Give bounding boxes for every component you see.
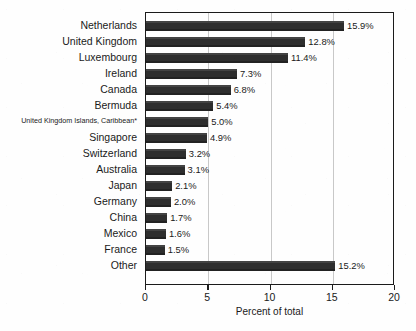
bar-row: 7.3%: [146, 66, 395, 82]
x-tick-label: 0: [130, 291, 160, 303]
bar-row: 2.0%: [146, 194, 395, 210]
bar: [146, 37, 305, 47]
bar-value-label: 15.2%: [335, 259, 365, 273]
category-label: Mexico: [104, 225, 137, 241]
x-tick-mark: [332, 285, 333, 290]
category-label: Netherlands: [80, 17, 137, 33]
bar: [146, 181, 172, 191]
bar-value-label: 6.8%: [231, 83, 255, 97]
bar-value-label: 7.3%: [237, 67, 261, 81]
bar-chart: NetherlandsUnited KingdomLuxembourgIrela…: [0, 0, 416, 331]
category-label: Other: [111, 257, 137, 273]
plot-area: 15.9%12.8%11.4%7.3%6.8%5.4%5.0%4.9%3.2%3…: [145, 12, 394, 285]
x-tick-label: 5: [192, 291, 222, 303]
bar-value-label: 2.0%: [171, 195, 195, 209]
bar-value-label: 5.0%: [208, 115, 232, 129]
category-label: United Kingdom Islands, Caribbean*: [21, 113, 137, 129]
category-label: Switzerland: [83, 145, 137, 161]
bar: [146, 117, 208, 127]
bar-row: 3.2%: [146, 146, 395, 162]
bar: [146, 165, 185, 175]
bar: [146, 229, 166, 239]
bar-value-label: 3.2%: [186, 147, 210, 161]
category-label: Ireland: [105, 65, 137, 81]
bar-value-label: 1.6%: [166, 227, 190, 241]
bar-value-label: 2.1%: [172, 179, 196, 193]
category-axis-labels: NetherlandsUnited KingdomLuxembourgIrela…: [0, 12, 141, 285]
bar-value-label: 4.9%: [207, 131, 231, 145]
bar: [146, 53, 288, 63]
category-label: Japan: [108, 177, 137, 193]
x-tick-mark: [394, 285, 395, 290]
bar: [146, 85, 231, 95]
bar: [146, 21, 344, 31]
category-label: Singapore: [89, 129, 137, 145]
bar: [146, 69, 237, 79]
bar-row: 11.4%: [146, 50, 395, 66]
bar-value-label: 11.4%: [288, 51, 317, 65]
bar: [146, 101, 213, 111]
bar-row: 3.1%: [146, 162, 395, 178]
category-label: Bermuda: [94, 97, 137, 113]
bar-row: 2.1%: [146, 178, 395, 194]
bar-row: 12.8%: [146, 34, 395, 50]
bar-row: 1.7%: [146, 210, 395, 226]
x-tick-mark: [270, 285, 271, 290]
bar-row: 15.9%: [146, 18, 395, 34]
bar-row: 6.8%: [146, 82, 395, 98]
bar-value-label: 15.9%: [344, 19, 374, 33]
category-label: France: [104, 241, 137, 257]
bar: [146, 261, 335, 271]
bar-value-label: 1.7%: [167, 211, 191, 225]
category-label: Germany: [94, 193, 137, 209]
bar-row: 1.6%: [146, 226, 395, 242]
x-tick-label: 20: [379, 291, 409, 303]
category-label: Canada: [100, 81, 137, 97]
bar-row: 5.4%: [146, 98, 395, 114]
bar: [146, 133, 207, 143]
category-label: Australia: [96, 161, 137, 177]
bar-value-label: 1.5%: [165, 243, 189, 257]
bar: [146, 197, 171, 207]
bar-row: 15.2%: [146, 258, 395, 274]
category-label: China: [110, 209, 137, 225]
bar: [146, 245, 165, 255]
bar: [146, 149, 186, 159]
bar-value-label: 12.8%: [305, 35, 335, 49]
bar-value-label: 3.1%: [185, 163, 209, 177]
bar-value-label: 5.4%: [213, 99, 237, 113]
x-tick-label: 10: [255, 291, 285, 303]
x-axis-title: Percent of total: [145, 306, 394, 317]
x-tick-mark: [207, 285, 208, 290]
bar-row: 5.0%: [146, 114, 395, 130]
category-label: Luxembourg: [79, 49, 137, 65]
bar: [146, 213, 167, 223]
x-tick-mark: [145, 285, 146, 290]
x-tick-label: 15: [317, 291, 347, 303]
bar-row: 1.5%: [146, 242, 395, 258]
bar-row: 4.9%: [146, 130, 395, 146]
category-label: United Kingdom: [62, 33, 137, 49]
